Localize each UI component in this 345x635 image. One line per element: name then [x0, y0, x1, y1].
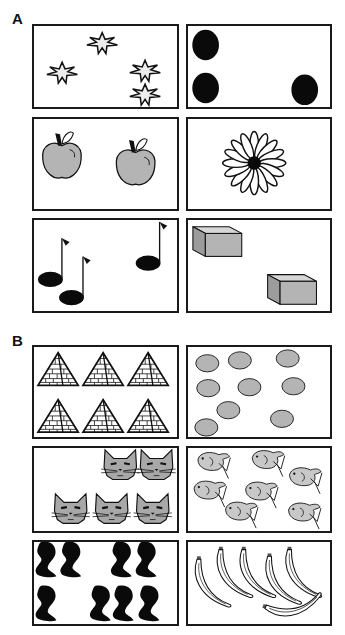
panel-music-notes	[32, 218, 179, 313]
panel-apples	[32, 117, 179, 211]
oval-icons	[188, 26, 330, 107]
fish-icons	[188, 448, 330, 531]
music-note-icons	[34, 220, 177, 311]
panel-fish	[186, 446, 332, 533]
panel-stars	[32, 24, 179, 109]
gray-oval-icons	[188, 347, 330, 437]
black-shape-icons	[34, 542, 177, 624]
panel-gray-ovals	[186, 345, 332, 439]
panel-black-dots	[186, 24, 332, 109]
pyramid-icons	[34, 347, 177, 437]
panel-boxes	[186, 218, 332, 313]
panel-cats	[32, 446, 179, 533]
section-label-a: A	[12, 10, 23, 27]
panel-flower	[186, 117, 332, 211]
flower-icon	[188, 119, 330, 209]
banana-icons	[188, 542, 330, 624]
panel-bananas	[186, 540, 332, 626]
panel-pyramids	[32, 345, 179, 439]
box-icons	[188, 220, 330, 311]
panel-black-shapes	[32, 540, 179, 626]
section-label-b: B	[12, 332, 23, 349]
cat-face-icons	[34, 448, 177, 531]
apple-icons	[34, 119, 177, 209]
star-icons	[34, 26, 177, 107]
